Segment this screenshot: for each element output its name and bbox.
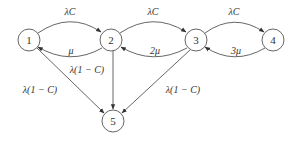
label-2-to-3: λC	[146, 6, 158, 17]
edge-1-to-5	[37, 48, 104, 113]
label-2-to-1: μ	[67, 45, 73, 56]
label-4-to-3: 3μ	[230, 45, 241, 56]
node-4: 4	[262, 29, 284, 51]
node-2-label: 2	[108, 34, 114, 46]
node-4-label: 4	[270, 34, 276, 46]
edge-3-to-5	[122, 50, 190, 113]
node-1: 1	[18, 29, 40, 51]
edge-3-to-4	[205, 22, 264, 33]
label-1-to-5: λ(1 − C)	[22, 84, 58, 96]
label-3-to-4: λC	[227, 6, 239, 17]
edge-2-to-3	[120, 22, 186, 33]
node-2: 2	[100, 29, 122, 51]
label-3-to-2: 2μ	[150, 45, 160, 56]
node-3: 3	[185, 29, 207, 51]
edge-1-to-2	[38, 22, 101, 33]
edge-labels: λC μ λC 2μ λC 3μ λ(1 − C) λ(1 − C) λ(1 −…	[22, 6, 241, 96]
node-5: 5	[102, 110, 124, 132]
label-1-to-2: λC	[63, 6, 75, 17]
label-2-to-5: λ(1 − C)	[69, 64, 105, 76]
label-3-to-5: λ(1 − C)	[165, 84, 201, 96]
node-5-label: 5	[110, 115, 116, 127]
node-3-label: 3	[193, 34, 199, 46]
node-1-label: 1	[26, 34, 32, 46]
state-transition-diagram: 1 2 3 4 5 λC μ λC 2μ λC 3μ λ(1 − C) λ(1 …	[0, 0, 306, 143]
